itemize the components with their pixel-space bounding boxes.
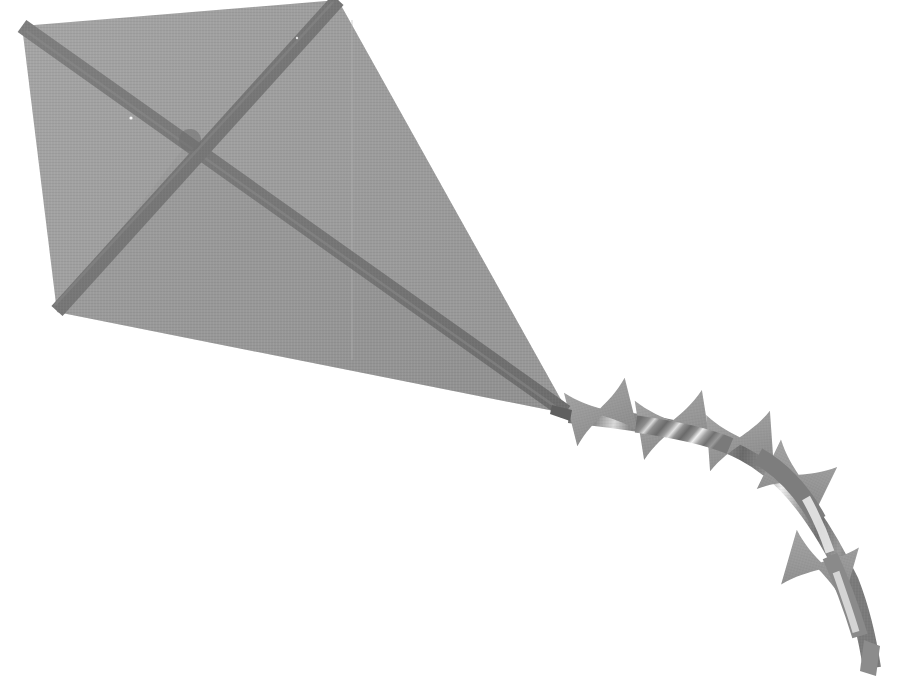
spar-junction: [179, 129, 201, 151]
sail-speck-1: [129, 116, 132, 119]
sail-speck-2: [296, 37, 298, 39]
kite-illustration: [0, 0, 903, 689]
kite-scene: Kite with bow-tie tail: [0, 0, 903, 689]
